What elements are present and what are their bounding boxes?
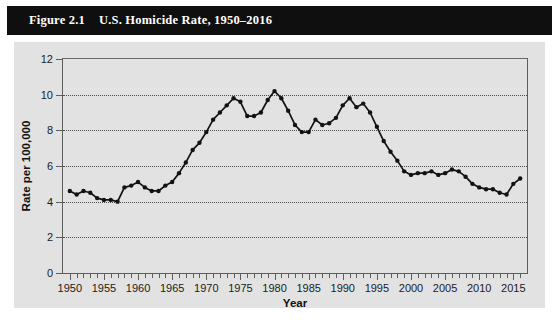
data-point	[136, 180, 140, 184]
x-tick-label: 1985	[296, 282, 320, 294]
y-tick	[56, 59, 63, 60]
data-point	[184, 160, 188, 164]
data-point	[341, 103, 345, 107]
x-tick-major	[343, 273, 344, 280]
x-tick-minor	[131, 273, 132, 278]
data-point	[518, 176, 522, 180]
x-tick-minor	[500, 273, 501, 278]
y-tick	[56, 273, 63, 274]
x-tick-minor	[288, 273, 289, 278]
data-point	[286, 109, 290, 113]
x-tick-minor	[186, 273, 187, 278]
y-tick-label: 4	[47, 196, 53, 208]
data-point	[409, 173, 413, 177]
x-tick-label: 2005	[433, 282, 457, 294]
figure-title-bar: Figure 2.1U.S. Homicide Rate, 1950–2016	[7, 6, 552, 35]
y-tick-label: 8	[47, 124, 53, 136]
plot-area: 024681012 195019551960196519701975198019…	[62, 58, 528, 274]
data-point	[190, 148, 194, 152]
x-tick-minor	[118, 273, 119, 278]
data-point	[470, 182, 474, 186]
data-point	[81, 189, 85, 193]
x-tick-minor	[159, 273, 160, 278]
x-tick-label: 1950	[58, 282, 82, 294]
y-tick-label: 2	[47, 231, 53, 243]
data-point	[279, 96, 283, 100]
x-tick-minor	[472, 273, 473, 278]
x-tick-major	[70, 273, 71, 280]
x-tick-minor	[363, 273, 364, 278]
x-tick-minor	[261, 273, 262, 278]
data-point	[109, 198, 113, 202]
x-tick-major	[411, 273, 412, 280]
x-tick-minor	[418, 273, 419, 278]
x-tick-minor	[350, 273, 351, 278]
x-tick-minor	[356, 273, 357, 278]
data-point	[334, 116, 338, 120]
data-point	[143, 185, 147, 189]
data-point	[320, 123, 324, 127]
x-tick-minor	[124, 273, 125, 278]
data-point	[300, 130, 304, 134]
x-tick-minor	[165, 273, 166, 278]
data-point	[74, 192, 78, 196]
x-tick-minor	[234, 273, 235, 278]
data-point	[245, 114, 249, 118]
data-point	[416, 171, 420, 175]
data-point	[368, 110, 372, 114]
x-tick-major	[309, 273, 310, 280]
data-point	[115, 199, 119, 203]
x-tick-major	[240, 273, 241, 280]
data-point	[511, 182, 515, 186]
x-tick-label: 1970	[194, 282, 218, 294]
y-tick-label: 12	[41, 53, 53, 65]
x-tick-minor	[315, 273, 316, 278]
data-point	[95, 196, 99, 200]
data-point	[177, 171, 181, 175]
y-tick	[56, 202, 63, 203]
data-point	[498, 191, 502, 195]
figure-number: Figure 2.1	[29, 13, 85, 27]
data-point	[122, 185, 126, 189]
data-point	[266, 98, 270, 102]
x-tick-minor	[193, 273, 194, 278]
x-tick-minor	[302, 273, 303, 278]
x-tick-label: 2010	[467, 282, 491, 294]
y-tick	[56, 130, 63, 131]
x-tick-minor	[459, 273, 460, 278]
x-tick-label: 1995	[365, 282, 389, 294]
data-point	[68, 189, 72, 193]
x-tick-major	[445, 273, 446, 280]
x-tick-major	[206, 273, 207, 280]
x-tick-minor	[336, 273, 337, 278]
data-point	[436, 173, 440, 177]
data-point	[463, 175, 467, 179]
data-point	[156, 189, 160, 193]
data-point	[375, 125, 379, 129]
data-point	[150, 189, 154, 193]
x-tick-minor	[220, 273, 221, 278]
x-tick-label: 2000	[399, 282, 423, 294]
x-tick-major	[104, 273, 105, 280]
x-tick-label: 1955	[92, 282, 116, 294]
x-tick-minor	[493, 273, 494, 278]
x-tick-minor	[90, 273, 91, 278]
data-point	[477, 185, 481, 189]
x-tick-label: 1965	[160, 282, 184, 294]
x-tick-label: 2015	[501, 282, 525, 294]
data-point	[313, 117, 317, 121]
x-tick-minor	[77, 273, 78, 278]
x-tick-minor	[425, 273, 426, 278]
chart-panel: Rate per 100,000 024681012 1950195519601…	[14, 42, 545, 308]
x-tick-label: 1990	[331, 282, 355, 294]
x-tick-minor	[452, 273, 453, 278]
x-tick-minor	[486, 273, 487, 278]
x-tick-minor	[281, 273, 282, 278]
data-point	[443, 171, 447, 175]
x-tick-label: 1980	[262, 282, 286, 294]
x-tick-minor	[466, 273, 467, 278]
x-tick-major	[377, 273, 378, 280]
data-point	[88, 191, 92, 195]
data-point	[395, 158, 399, 162]
x-tick-minor	[507, 273, 508, 278]
